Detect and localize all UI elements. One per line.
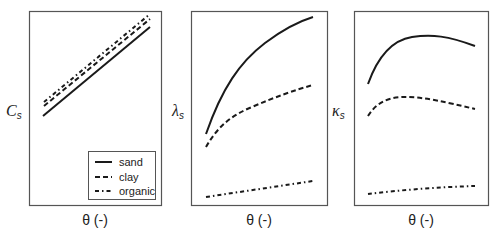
series-organic: [368, 186, 475, 194]
series-sand: [206, 17, 313, 134]
legend-label-organic: organic: [119, 185, 156, 197]
panel-thermal-diffusivity: κs θ (-): [332, 12, 489, 229]
y-axis-label: Cs: [6, 102, 22, 121]
series-organic: [44, 14, 150, 102]
plot-frame: [192, 12, 328, 206]
panel-heat-capacity: Cs θ (-) sand clay organic: [6, 12, 162, 229]
series-clay: [368, 97, 475, 116]
legend-label-sand: sand: [119, 156, 143, 168]
series-sand: [368, 36, 475, 84]
x-axis-label: θ (-): [82, 212, 108, 228]
series-organic: [206, 181, 313, 197]
y-axis-label: λs: [171, 102, 184, 121]
x-axis-label: θ (-): [246, 212, 272, 228]
legend: sand clay organic: [89, 152, 156, 200]
x-axis-label: θ (-): [408, 212, 434, 228]
y-axis-label: κs: [332, 102, 345, 121]
panel-thermal-conductivity: λs θ (-): [171, 12, 328, 229]
series-sand: [43, 27, 150, 116]
series-clay: [44, 19, 150, 106]
figure: Cs θ (-) sand clay organic λs θ (-) κs θ…: [0, 0, 495, 232]
legend-label-clay: clay: [119, 171, 139, 183]
